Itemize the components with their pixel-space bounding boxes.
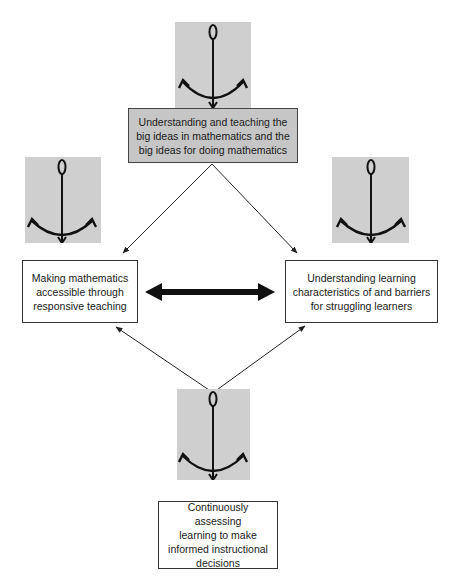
anchor-box-left <box>25 157 101 243</box>
double-arrow-left-right <box>145 283 275 301</box>
node-accessible-teaching: Making mathematics accessible through re… <box>22 260 138 323</box>
node-text-line: big ideas for doing mathematics <box>136 143 290 157</box>
anchor-icon <box>177 389 250 480</box>
node-text-line: learning to make <box>165 528 271 542</box>
anchor-icon <box>175 22 251 108</box>
edge-top-to-right <box>212 164 297 253</box>
edge-top-to-left <box>123 164 212 253</box>
node-text-line: decisions <box>165 556 271 570</box>
edge-bottom-to-left <box>116 327 212 392</box>
edge-bottom-to-right <box>214 326 305 392</box>
node-text-line: Understanding learning <box>293 271 431 285</box>
node-text-line: for struggling learners <box>293 299 431 313</box>
anchor-icon <box>25 157 101 243</box>
node-text-line: Continuously assessing <box>165 500 271 528</box>
node-learning-barriers: Understanding learning characteristics o… <box>285 260 438 323</box>
node-text-line: accessible through <box>32 285 128 299</box>
node-text-line: big ideas in mathematics and the <box>136 129 290 143</box>
node-text-line: responsive teaching <box>32 299 128 313</box>
node-text-line: characteristics of and barriers <box>293 285 431 299</box>
anchor-box-top <box>175 22 251 108</box>
node-continuous-assessment: Continuously assessing learning to make … <box>158 501 278 569</box>
node-text-line: Making mathematics <box>32 271 128 285</box>
anchor-box-right <box>332 157 409 243</box>
node-text-line: informed instructional <box>165 542 271 556</box>
anchor-icon <box>332 157 409 243</box>
node-big-ideas: Understanding and teaching the big ideas… <box>128 108 298 163</box>
node-text-line: Understanding and teaching the <box>136 115 290 129</box>
anchor-box-bottom <box>177 389 250 480</box>
